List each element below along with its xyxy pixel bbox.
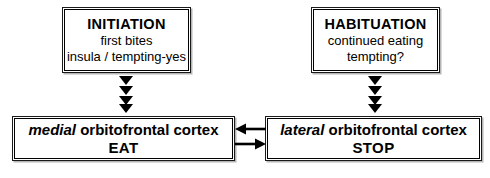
- triangle-down-icon: [119, 104, 133, 113]
- node-lateral-ofc-region-rest: orbitofrontal cortex: [324, 121, 467, 138]
- node-initiation-line3: insula / tempting-yes: [67, 49, 186, 64]
- node-medial-ofc-action: EAT: [108, 139, 138, 157]
- node-medial-ofc-body: medial orbitofrontal cortex EAT: [14, 118, 233, 159]
- arrow-head-into-lateral: [368, 104, 382, 113]
- arrow-initiation-to-medial: [119, 76, 133, 105]
- node-lateral-ofc-action: STOP: [352, 139, 394, 157]
- bidirectional-arrow-icon: [235, 122, 266, 156]
- node-habituation-line3: tempting?: [347, 49, 404, 64]
- node-habituation: HABITUATION continued eating tempting?: [311, 7, 440, 73]
- node-lateral-ofc-region: lateral orbitofrontal cortex: [280, 121, 467, 139]
- node-initiation-body: INITIATION first bites insula / tempting…: [64, 9, 189, 71]
- node-medial-ofc-region-rest: orbitofrontal cortex: [76, 121, 219, 138]
- node-initiation-heading: INITIATION: [87, 16, 165, 33]
- node-medial-ofc-region: medial orbitofrontal cortex: [28, 121, 218, 139]
- node-initiation-line2: first bites: [100, 33, 152, 48]
- node-habituation-body: HABITUATION continued eating tempting?: [313, 9, 438, 71]
- node-habituation-heading: HABITUATION: [324, 16, 426, 33]
- node-lateral-ofc-body: lateral orbitofrontal cortex STOP: [267, 118, 480, 159]
- triangle-down-icon: [368, 86, 382, 95]
- node-initiation: INITIATION first bites insula / tempting…: [62, 7, 191, 73]
- node-lateral-ofc-region-emphasis: lateral: [280, 121, 324, 138]
- arrow-head-into-medial: [119, 104, 133, 113]
- triangle-down-icon: [368, 104, 382, 113]
- triangle-down-icon: [119, 76, 133, 85]
- diagram-canvas: INITIATION first bites insula / tempting…: [0, 0, 490, 178]
- arrow-habituation-to-lateral: [368, 76, 382, 105]
- triangle-down-icon: [119, 86, 133, 95]
- node-habituation-line2: continued eating: [328, 33, 423, 48]
- node-medial-ofc-region-emphasis: medial: [28, 121, 76, 138]
- node-medial-ofc: medial orbitofrontal cortex EAT: [12, 116, 235, 161]
- arrow-pair-medial-lateral: [235, 122, 266, 156]
- node-lateral-ofc: lateral orbitofrontal cortex STOP: [265, 116, 482, 161]
- triangle-down-icon: [368, 76, 382, 85]
